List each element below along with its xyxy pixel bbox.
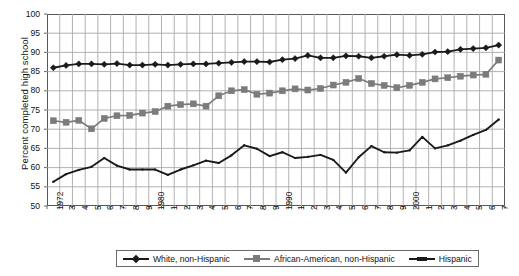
data-point-marker bbox=[190, 101, 196, 107]
data-point-marker bbox=[78, 169, 80, 171]
data-point-marker bbox=[52, 181, 54, 183]
data-point-marker bbox=[358, 156, 360, 158]
data-point-marker bbox=[470, 45, 476, 51]
data-point-marker bbox=[320, 154, 322, 156]
x-axis-tick-label: 8 bbox=[133, 205, 141, 210]
legend-symbol-line-icon bbox=[409, 254, 435, 264]
data-point-marker bbox=[394, 85, 400, 91]
legend-symbol-square-icon bbox=[244, 254, 270, 264]
data-point-marker bbox=[116, 165, 118, 167]
data-point-marker bbox=[483, 71, 489, 77]
x-axis-tick-label: 3 bbox=[69, 205, 77, 210]
data-point-marker bbox=[457, 46, 463, 52]
data-point-marker bbox=[76, 61, 82, 67]
data-point-marker bbox=[127, 62, 133, 68]
data-point-marker bbox=[114, 60, 120, 66]
data-point-marker bbox=[496, 42, 502, 48]
series-line-0 bbox=[53, 45, 498, 68]
data-point-marker bbox=[152, 61, 158, 67]
data-point-marker bbox=[281, 151, 283, 153]
x-axis-tick-label: 6 bbox=[107, 205, 115, 210]
x-axis-tick-label: 7 bbox=[375, 205, 383, 210]
data-point-marker bbox=[76, 117, 82, 123]
legend-symbol-diamond-icon bbox=[123, 254, 149, 264]
data-point-marker bbox=[254, 59, 260, 65]
legend-entry-0[interactable]: White, non-Hispanic bbox=[123, 254, 230, 264]
data-point-marker bbox=[203, 61, 209, 67]
data-point-marker bbox=[432, 76, 438, 82]
x-axis-tick-label: 2 bbox=[311, 205, 319, 210]
data-point-marker bbox=[101, 115, 107, 121]
data-point-marker bbox=[345, 172, 347, 174]
data-point-marker bbox=[459, 140, 461, 142]
data-point-marker bbox=[50, 65, 56, 71]
x-axis-tick-label: 1 bbox=[426, 205, 434, 210]
x-axis-tick-label: 4 bbox=[209, 205, 217, 210]
x-axis-tick-label: 5 bbox=[476, 205, 484, 210]
data-point-marker bbox=[254, 91, 260, 97]
data-point-marker bbox=[228, 59, 234, 65]
data-point-marker bbox=[447, 144, 449, 146]
data-point-marker bbox=[434, 147, 436, 149]
data-point-marker bbox=[243, 144, 245, 146]
x-axis-tick-label: 8 bbox=[260, 205, 268, 210]
legend-entry-1[interactable]: African-American, non-Hispanic bbox=[244, 254, 395, 264]
data-point-marker bbox=[114, 113, 120, 119]
data-point-marker bbox=[318, 85, 324, 91]
data-point-marker bbox=[292, 55, 298, 61]
data-point-marker bbox=[127, 112, 133, 118]
data-point-marker bbox=[305, 87, 311, 93]
data-point-marker bbox=[177, 61, 183, 67]
data-point-marker bbox=[230, 154, 232, 156]
data-point-marker bbox=[419, 51, 425, 57]
data-point-marker bbox=[216, 93, 222, 99]
x-axis-tick-label: 4 bbox=[464, 205, 472, 210]
data-point-marker bbox=[396, 152, 398, 154]
x-axis-tick-label: 1 bbox=[171, 205, 179, 210]
data-point-marker bbox=[50, 118, 56, 124]
x-axis-tick-label: 9 bbox=[273, 205, 281, 210]
legend-marker bbox=[417, 257, 427, 261]
data-point-marker bbox=[421, 136, 423, 138]
data-point-marker bbox=[472, 134, 474, 136]
data-point-marker bbox=[269, 155, 271, 157]
data-point-marker bbox=[307, 156, 309, 158]
data-point-marker bbox=[445, 49, 451, 55]
series-line-2 bbox=[53, 120, 498, 182]
data-point-marker bbox=[445, 75, 451, 81]
data-point-marker bbox=[343, 79, 349, 85]
data-point-marker bbox=[89, 126, 95, 132]
legend-label: Hispanic bbox=[439, 254, 472, 264]
x-axis-tick-label: 5 bbox=[222, 205, 230, 210]
data-point-marker bbox=[241, 59, 247, 65]
data-point-marker bbox=[267, 90, 273, 96]
data-point-marker bbox=[406, 52, 412, 58]
data-point-marker bbox=[383, 151, 385, 153]
data-point-marker bbox=[419, 79, 425, 85]
data-point-marker bbox=[203, 103, 209, 109]
chart-container: Percent completed high school 1009590858… bbox=[0, 0, 519, 276]
data-point-marker bbox=[432, 49, 438, 55]
data-point-marker bbox=[381, 82, 387, 88]
data-point-marker bbox=[91, 166, 93, 168]
legend-marker bbox=[132, 254, 140, 262]
x-axis-tick-label: 2 bbox=[184, 205, 192, 210]
legend-marker bbox=[253, 255, 260, 262]
data-point-marker bbox=[192, 164, 194, 166]
data-point-marker bbox=[332, 159, 334, 161]
data-point-marker bbox=[180, 169, 182, 171]
data-point-marker bbox=[279, 57, 285, 63]
data-point-marker bbox=[165, 62, 171, 68]
data-point-marker bbox=[483, 45, 489, 51]
x-axis-tick-label: 4 bbox=[82, 205, 90, 210]
data-point-marker bbox=[88, 61, 94, 67]
legend-entry-2[interactable]: Hispanic bbox=[409, 254, 472, 264]
data-point-marker bbox=[409, 149, 411, 151]
data-point-marker bbox=[141, 169, 143, 171]
data-point-marker bbox=[470, 72, 476, 78]
x-axis-tick-label: 5 bbox=[349, 205, 357, 210]
x-axis-tick-label: 2 bbox=[438, 205, 446, 210]
data-point-marker bbox=[165, 103, 171, 109]
x-axis-tick-label: 9 bbox=[146, 205, 154, 210]
data-point-marker bbox=[152, 109, 158, 115]
